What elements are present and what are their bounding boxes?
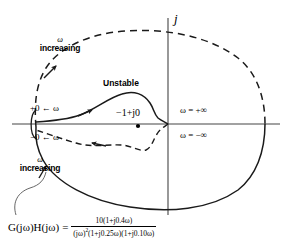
formula-fraction: 10(1+j0.4ω) (jω)2(1+j0.25ω)(1+j0.10ω) [71, 216, 156, 238]
omega-increasing-bottom-label: ω increasing [2, 156, 78, 173]
formula-denominator: (jω)2(1+j0.25ω)(1+j0.10ω) [71, 227, 156, 238]
formula-denominator-rest: (1+j0.25ω)(1+j0.10ω) [88, 229, 154, 238]
formula-equals-sign: = [62, 221, 68, 233]
formula-numerator: 10(1+j0.4ω) [91, 216, 136, 226]
critical-point-label: −1+j0 [116, 108, 140, 119]
formula-denominator-jw: (jω) [73, 229, 85, 238]
nyquist-plot-figure: j ω increasing ω increasing Unstable −1+… [0, 0, 285, 249]
formula-leader-line [15, 172, 46, 215]
unstable-region-label: Unstable [103, 79, 139, 88]
formula-left-hand-side: G(jω)H(jω) [8, 221, 59, 233]
omega-minus-infinity-label: ω = −∞ [180, 131, 207, 140]
minus-zero-label: −0 ← ω [30, 133, 59, 142]
inner-locus-upper-arrowhead [78, 110, 92, 116]
plus-zero-label: +0 ← ω [30, 104, 59, 113]
increasing-text-bottom: increasing [2, 164, 78, 173]
omega-increasing-top-label: ω increasing [22, 36, 98, 53]
imaginary-axis-label: j [174, 12, 178, 26]
increasing-text-top: increasing [22, 44, 98, 53]
critical-point-marker [136, 124, 140, 128]
omega-plus-infinity-label: ω = +∞ [180, 106, 207, 115]
transfer-function-formula: G(jω)H(jω) = 10(1+j0.4ω) (jω)2(1+j0.25ω)… [8, 216, 156, 238]
